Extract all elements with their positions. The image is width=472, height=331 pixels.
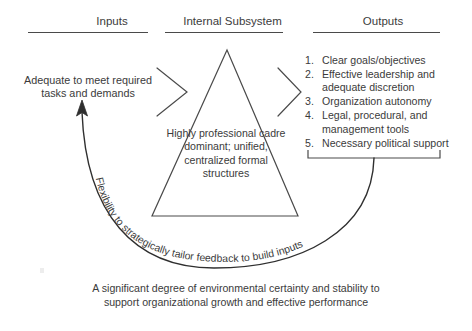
systems-model-diagram: Flexibility to strategically tailor feed… <box>0 0 472 331</box>
outputs-list-item-label: Organization autonomy <box>322 95 432 107</box>
outputs-list-item-label: Necessary political support <box>322 137 449 149</box>
outputs-chevron-icon <box>278 68 301 116</box>
column-header-outputs: Outputs <box>318 14 448 28</box>
outputs-list-item: 4.Legal, procedural, and management tool… <box>305 109 469 136</box>
outputs-list-item: 2.Effective leadership and adequate disc… <box>305 68 469 95</box>
outputs-list-item-number: 1. <box>305 54 314 67</box>
scan-artifact <box>40 268 44 273</box>
outputs-list-item-label: Effective leadership and adequate discre… <box>322 68 435 93</box>
column-header-internal-subsystem: Internal Subsystem <box>160 14 305 28</box>
outputs-list-item-number: 5. <box>305 137 314 150</box>
outputs-list-item-label: Clear goals/objectives <box>322 54 426 66</box>
outputs-list: 1.Clear goals/objectives2.Effective lead… <box>305 54 469 151</box>
outputs-bracket <box>308 150 440 158</box>
environment-caption: A significant degree of environmental ce… <box>86 282 386 309</box>
internal-subsystem-description: Highly professional cadre dominant; unif… <box>162 127 290 181</box>
outputs-list-item-number: 2. <box>305 68 314 81</box>
outputs-list-item-number: 3. <box>305 95 314 108</box>
feedback-arc-label: Flexibility to strategically tailor feed… <box>94 176 305 264</box>
outputs-list-item-label: Legal, procedural, and management tools <box>322 109 427 134</box>
inputs-description: Adequate to meet required tasks and dema… <box>14 74 162 100</box>
outputs-list-item: 3.Organization autonomy <box>305 95 469 108</box>
outputs-list-item: 1.Clear goals/objectives <box>305 54 469 67</box>
outputs-list-item: 5.Necessary political support <box>305 137 469 150</box>
outputs-list-item-number: 4. <box>305 109 314 122</box>
